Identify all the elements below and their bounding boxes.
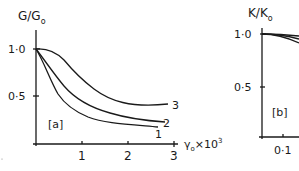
figure: G/Go 1·0 0·5 1 2 3 γo×103 [a] 1 2 3 K/Ko… <box>0 0 299 171</box>
panel-a-xtick-label-1: 1 <box>78 149 86 163</box>
panel-a-ytick-label-1: 1·0 <box>8 43 26 56</box>
panel-a-xtick-label-2: 2 <box>124 149 132 163</box>
panel-a-curve-label-2: 2 <box>163 117 170 130</box>
panel-a-ytick-label-05: 0·5 <box>8 90 26 103</box>
panel-b-ytick-label-05: 0·5 <box>234 81 252 94</box>
panel-a-curve-label-1: 1 <box>155 128 162 141</box>
scan-artifact-dot <box>1 158 2 159</box>
panel-a-xtick-label-3: 3 <box>170 149 178 163</box>
panel-a-xlabel: γo×103 <box>184 137 223 153</box>
panel-a-curve-3 <box>36 49 168 105</box>
panel-a-curve-2 <box>36 49 165 122</box>
panel-a-panel-label: [a] <box>48 118 63 131</box>
panel-b <box>259 28 299 139</box>
panel-a-curve-label-3: 3 <box>172 99 179 112</box>
panel-a-ylabel: G/Go <box>18 9 46 26</box>
panel-b-panel-label: [b] <box>272 106 288 119</box>
panel-a-curve-1 <box>36 49 158 127</box>
panel-b-xtick-label-01: 0·1 <box>274 144 292 157</box>
panel-b-ylabel: K/Ko <box>248 6 273 23</box>
panel-b-ytick-label-1: 1·0 <box>234 28 252 41</box>
